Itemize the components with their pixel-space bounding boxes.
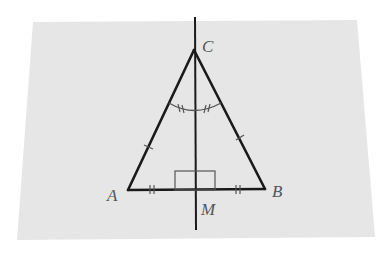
label-A: A (106, 186, 118, 205)
label-B: B (272, 182, 283, 201)
triangle-diagram: A B C M (0, 0, 390, 256)
perpendicular-bisector-CM (195, 17, 196, 230)
label-C: C (202, 37, 214, 56)
label-M: M (200, 200, 216, 219)
